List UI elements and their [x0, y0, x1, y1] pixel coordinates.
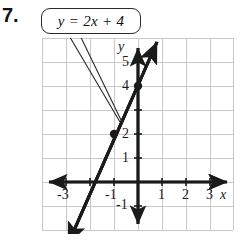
equation-label: y = 2x + 4 [42, 9, 140, 33]
y-tick-label-1: 1 [122, 151, 129, 165]
callout-leader [61, 38, 122, 122]
figure-root: 7. y = 2x + 4 [0, 0, 244, 241]
y-tick-label-2: 2 [122, 127, 129, 141]
x-tick-label-neg3: -3 [57, 188, 69, 202]
y-tick-label-5: 5 [122, 55, 129, 69]
y-axis-label: y [118, 40, 124, 54]
x-axis-label: x [220, 188, 226, 202]
coordinate-plane: y x 5 4 2 1 -1 -3 -1 1 2 3 [42, 38, 234, 234]
plot-point [134, 82, 142, 90]
y-tick-label-neg1: -1 [116, 198, 128, 212]
equation-callout-box: y = 2x + 4 [41, 8, 141, 34]
x-tick-label-neg1: -1 [105, 188, 117, 202]
problem-number: 7. [2, 4, 19, 27]
y-tick-label-4: 4 [122, 79, 129, 93]
x-tick-label-2: 2 [182, 188, 189, 202]
plot-point [110, 130, 118, 138]
x-tick-label-3: 3 [206, 188, 213, 202]
x-tick-label-1: 1 [158, 188, 165, 202]
